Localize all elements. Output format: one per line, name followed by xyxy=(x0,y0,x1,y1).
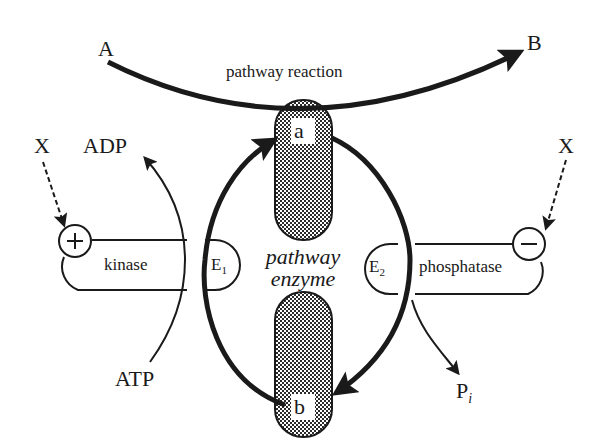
pi-release-arrow xyxy=(412,300,458,373)
e2-label: E2 xyxy=(369,258,385,278)
pathway-enzyme-label-1: pathway xyxy=(266,246,341,268)
pathway-enzyme-label-2: enzyme xyxy=(271,268,336,290)
left-effector-arrow xyxy=(43,162,64,225)
enzyme-form-a-label: a xyxy=(294,120,304,142)
left-effector-label: X xyxy=(34,135,50,157)
pi-label: Pi xyxy=(456,380,472,406)
phosphatase-label: phosphatase xyxy=(419,258,502,275)
pathway-reaction-label: pathway reaction xyxy=(226,63,343,80)
kinase-label: kinase xyxy=(104,256,147,273)
product-label: B xyxy=(527,32,542,54)
e1-label: E1 xyxy=(211,256,227,276)
substrate-label: A xyxy=(98,38,114,60)
right-effector-arrow xyxy=(546,160,566,228)
right-effector-label: X xyxy=(558,135,574,157)
enzyme-form-b-label: b xyxy=(294,396,305,418)
atp-label: ATP xyxy=(115,368,154,390)
atp-to-adp-arrow xyxy=(145,158,185,362)
adp-label: ADP xyxy=(83,135,127,157)
